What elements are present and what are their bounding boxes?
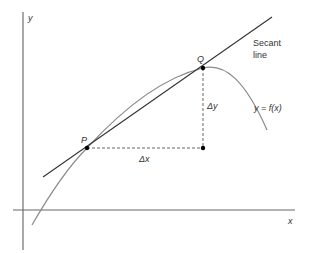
point-p-label: P	[81, 136, 87, 145]
point-q-label: Q	[197, 55, 204, 64]
secant-line	[43, 17, 272, 177]
point-q	[201, 66, 205, 70]
secant-label-line2: line	[253, 51, 267, 60]
point-p	[85, 146, 89, 150]
delta-y-label: Δy	[207, 102, 218, 111]
x-axis-label: x	[288, 217, 293, 226]
corner-point	[201, 146, 205, 150]
curve-label: y = f(x)	[254, 104, 282, 113]
function-curve	[32, 67, 267, 225]
delta-x-label: Δx	[139, 155, 150, 164]
secant-label-line1: Secant	[253, 39, 281, 48]
y-axis-label: y	[28, 14, 33, 23]
